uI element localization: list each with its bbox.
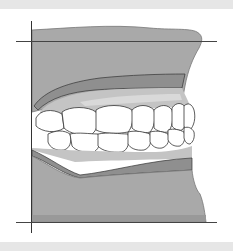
mandible-base-shadow xyxy=(32,215,206,221)
dental-diagram xyxy=(0,0,233,251)
